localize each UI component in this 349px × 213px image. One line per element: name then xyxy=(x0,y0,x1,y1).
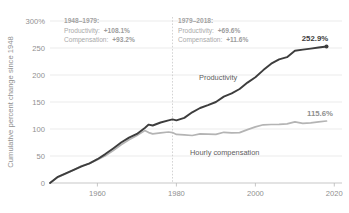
annotation-row: Compensation: +93.2% xyxy=(64,36,135,44)
annotation-row-label: Compensation: xyxy=(178,36,223,44)
series-label-productivity: Productivity xyxy=(199,73,238,82)
annotation-heading: 1979–2018: xyxy=(178,17,213,24)
annotation-row: Productivity: +108.1% xyxy=(64,27,130,35)
y-axis-tick-labels: 300% 250 200 150 100 50 0 xyxy=(26,17,46,188)
y-tick-50: 50 xyxy=(37,152,45,161)
annotation-row-value: +93.2% xyxy=(112,36,135,43)
chart-canvas: 300% 250 200 150 100 50 0 1960 1980 2000… xyxy=(0,0,349,213)
x-tick-1960: 1960 xyxy=(89,189,106,198)
productivity-pay-gap-chart: 300% 250 200 150 100 50 0 1960 1980 2000… xyxy=(0,0,349,213)
x-axis-tick-labels: 1960 1980 2000 2020 xyxy=(89,189,343,198)
series-line-hourly-compensation xyxy=(50,121,327,183)
y-tick-150: 150 xyxy=(32,98,45,107)
annotation-row-label: Productivity: xyxy=(178,27,214,35)
y-tick-300: 300% xyxy=(26,17,46,26)
y-tick-200: 200 xyxy=(32,71,45,80)
annotation-row-value: +11.6% xyxy=(226,36,248,43)
annotation-row: Compensation: +11.6% xyxy=(178,36,249,44)
x-tick-2020: 2020 xyxy=(326,189,343,198)
y-tick-250: 250 xyxy=(32,44,45,53)
annotation-row-value: +108.1% xyxy=(104,27,130,34)
endpoint-dot-productivity xyxy=(325,45,329,49)
x-axis-ticks xyxy=(97,183,334,187)
annotation-row-value: +69.6% xyxy=(218,27,241,34)
y-tick-0: 0 xyxy=(41,179,45,188)
endpoint-label-hourly-compensation: 115.6% xyxy=(307,109,333,118)
series-line-productivity xyxy=(50,47,327,184)
annotation-row: Productivity: +69.6% xyxy=(178,27,240,35)
annotation-heading: 1948–1979: xyxy=(64,17,99,24)
series-label-hourly-compensation: Hourly compensation xyxy=(190,148,259,157)
endpoint-label-productivity: 252.9% xyxy=(302,34,329,43)
x-tick-2000: 2000 xyxy=(247,189,264,198)
y-axis-title: Cumulative percent change since 1948 xyxy=(6,36,15,167)
annotation-row-label: Productivity: xyxy=(64,27,100,35)
x-tick-1980: 1980 xyxy=(168,189,185,198)
y-tick-100: 100 xyxy=(32,125,45,134)
annotation-row-label: Compensation: xyxy=(64,36,109,44)
